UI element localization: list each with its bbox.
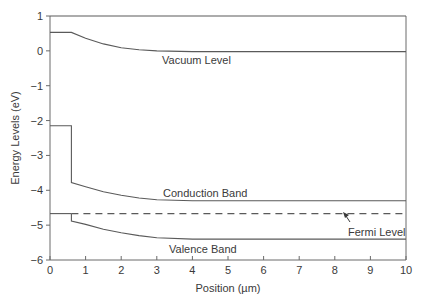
conduction-band-label: Conduction Band xyxy=(163,187,247,199)
x-axis-title: Position (µm) xyxy=(195,282,260,294)
vacuum-levelline xyxy=(50,32,406,51)
x-tick-label: 2 xyxy=(118,264,124,276)
vacuum-level-label: Vacuum Level xyxy=(162,54,231,66)
series-lines xyxy=(50,16,406,239)
y-tick-label: 0 xyxy=(37,45,43,57)
axes xyxy=(50,16,406,260)
y-tick-label: −6 xyxy=(30,254,43,266)
y-tick-label: −4 xyxy=(30,184,43,196)
y-tick-label: −5 xyxy=(30,219,43,231)
band-diagram-chart: 01234567891010−1−2−3−4−5−6 Vacuum Level … xyxy=(0,0,423,301)
x-tick-label: 7 xyxy=(296,264,302,276)
y-tick-label: −3 xyxy=(30,149,43,161)
x-tick-label: 4 xyxy=(189,264,195,276)
x-tick-label: 8 xyxy=(332,264,338,276)
x-tick-label: 5 xyxy=(225,264,231,276)
x-tick-label: 1 xyxy=(83,264,89,276)
ticks xyxy=(46,16,406,260)
x-tick-label: 10 xyxy=(400,264,412,276)
valence-band-label: Valence Band xyxy=(169,243,237,255)
x-tick-label: 9 xyxy=(367,264,373,276)
y-tick-label: −1 xyxy=(30,80,43,92)
y-tick-label: 1 xyxy=(37,10,43,22)
y-tick-label: −2 xyxy=(30,115,43,127)
x-tick-label: 3 xyxy=(154,264,160,276)
x-tick-label: 6 xyxy=(261,264,267,276)
y-axis-title: Energy Levels (eV) xyxy=(9,91,21,185)
x-tick-label: 0 xyxy=(47,264,53,276)
fermi-level-label: Fermi Level xyxy=(348,226,405,238)
